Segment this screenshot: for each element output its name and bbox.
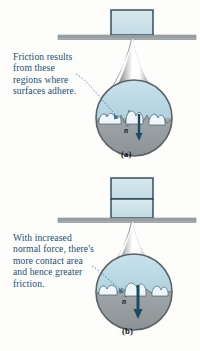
caption-panel-b: With increased normal force, there's mor… — [13, 232, 94, 289]
normal-force-symbol-b: → n — [122, 297, 126, 306]
magnified-circle-a — [96, 80, 172, 156]
friction-figure: Friction results from these regions wher… — [0, 0, 200, 351]
caption-b-line-1: With increased — [13, 232, 94, 243]
panel-b-label: (b) — [122, 326, 133, 336]
vector-arrow-icon-b: → — [122, 293, 128, 299]
vector-arrow-icon-a: → — [124, 122, 130, 128]
caption-a-line-4: surfaces adhere. — [13, 85, 76, 96]
caption-a-line-2: from these — [13, 62, 76, 73]
magnified-circle-b — [96, 254, 172, 330]
block-a — [111, 10, 153, 35]
panel-a-label: (a) — [121, 149, 132, 159]
caption-a-line-1: Friction results — [13, 51, 76, 62]
normal-force-symbol-a: → n — [124, 126, 128, 135]
caption-b-line-3: more contact area — [13, 255, 94, 266]
surface-a — [58, 35, 196, 40]
caption-b-line-5: friction. — [13, 278, 94, 289]
caption-b-line-2: normal force, there's — [13, 243, 94, 254]
block-b-upper — [111, 178, 153, 199]
caption-panel-a: Friction results from these regions wher… — [13, 51, 76, 97]
surface-b — [58, 218, 196, 223]
caption-b-line-4: and hence greater — [13, 266, 94, 277]
caption-a-line-3: regions where — [13, 74, 76, 85]
block-b-lower — [111, 199, 153, 218]
